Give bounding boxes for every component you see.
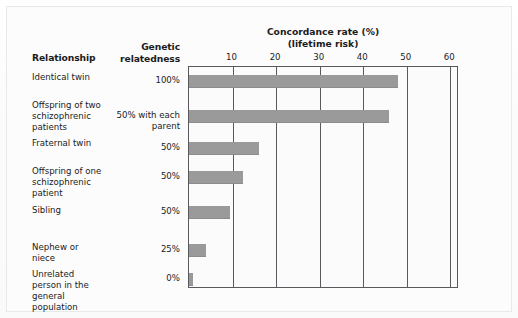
x-axis-tick-label-20: 20 <box>270 52 281 62</box>
figure-container: Relationship Genetic relatedness Concord… <box>0 0 518 318</box>
row-relatedness-3: 50% <box>104 171 180 182</box>
row-label-0: Identical twin <box>32 72 104 83</box>
bar-row-1 <box>189 110 389 123</box>
gridline-50 <box>407 67 408 287</box>
gridline-30 <box>320 67 321 287</box>
gridline-40 <box>363 67 364 287</box>
column-header-genetic-relatedness: Genetic relatedness <box>104 41 180 64</box>
x-axis-tick-label-40: 40 <box>357 52 368 62</box>
x-axis-tick-label-60: 60 <box>444 52 455 62</box>
row-relatedness-6: 0% <box>104 273 180 284</box>
row-relatedness-4: 50% <box>104 206 180 217</box>
bar-row-4 <box>189 206 230 219</box>
row-label-5: Nephew or niece <box>32 242 104 264</box>
chart-title-line2: (lifetime risk) <box>188 38 458 50</box>
x-axis-tick-label-30: 30 <box>313 52 324 62</box>
chart-title: Concordance rate (%) (lifetime risk) <box>188 26 458 49</box>
row-relatedness-2: 50% <box>104 142 180 153</box>
gridline-20 <box>276 67 277 287</box>
row-label-6: Unrelated person in the general populati… <box>32 269 104 313</box>
row-label-4: Sibling <box>32 205 104 216</box>
chart-title-line1: Concordance rate (%) <box>188 26 458 38</box>
row-relatedness-0: 100% <box>104 75 180 86</box>
plot-area <box>188 66 458 288</box>
bar-row-5 <box>189 244 206 257</box>
bar-row-0 <box>189 75 398 88</box>
x-axis-tick-label-50: 50 <box>400 52 411 62</box>
row-label-3: Offspring of one schizophrenic patient <box>32 166 104 199</box>
gridline-60 <box>450 67 451 287</box>
row-relatedness-5: 25% <box>104 244 180 255</box>
bar-row-3 <box>189 171 243 184</box>
column-header-relationship: Relationship <box>32 52 96 63</box>
x-axis-tick-label-10: 10 <box>226 52 237 62</box>
row-label-1: Offspring of two schizophrenic patients <box>32 100 104 133</box>
bar-row-6 <box>189 273 193 286</box>
row-relatedness-1: 50% with each parent <box>104 110 180 132</box>
bar-row-2 <box>189 142 259 155</box>
row-label-2: Fraternal twin <box>32 138 104 149</box>
